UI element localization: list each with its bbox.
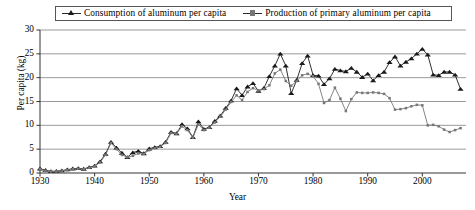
data-point-marker — [416, 104, 419, 107]
data-point-marker — [427, 124, 430, 127]
data-point-marker — [82, 168, 85, 171]
data-point-marker — [208, 126, 211, 129]
data-point-marker — [279, 68, 282, 71]
data-point-marker — [266, 74, 272, 78]
data-point-marker — [448, 131, 451, 134]
data-point-marker — [312, 75, 315, 78]
data-point-marker — [164, 142, 167, 145]
data-point-marker — [361, 92, 364, 95]
data-point-marker — [186, 129, 189, 132]
data-point-marker — [432, 124, 435, 127]
data-point-marker — [295, 80, 298, 83]
data-point-marker — [99, 161, 102, 164]
data-point-marker — [263, 88, 266, 91]
data-point-marker — [425, 53, 431, 57]
data-point-marker — [214, 121, 217, 124]
data-point-marker — [326, 77, 332, 81]
data-point-marker — [224, 108, 227, 111]
data-point-marker — [175, 133, 178, 136]
data-point-marker — [137, 152, 140, 155]
data-point-marker — [203, 129, 206, 132]
aluminum-per-capita-chart: Consumption of aluminum per capita Produ… — [0, 0, 475, 210]
plot-area — [0, 0, 475, 210]
data-point-marker — [386, 60, 392, 64]
data-point-marker — [195, 119, 201, 123]
data-point-marker — [290, 85, 293, 88]
data-point-marker — [405, 107, 408, 110]
data-point-marker — [153, 147, 156, 150]
data-point-marker — [72, 168, 75, 171]
data-point-marker — [381, 70, 387, 74]
data-point-marker — [77, 167, 80, 170]
data-point-marker — [419, 47, 425, 51]
data-point-marker — [268, 84, 271, 87]
data-point-marker — [230, 101, 233, 104]
data-point-marker — [110, 142, 113, 145]
data-point-marker — [192, 136, 195, 139]
data-point-marker — [148, 149, 151, 152]
data-point-marker — [252, 87, 255, 90]
data-point-marker — [350, 98, 353, 101]
data-point-marker — [241, 99, 244, 102]
data-point-marker — [299, 61, 305, 65]
data-point-marker — [285, 80, 288, 83]
data-point-marker — [332, 67, 338, 71]
data-point-marker — [143, 153, 146, 156]
data-point-marker — [459, 127, 462, 129]
data-point-marker — [121, 154, 124, 157]
data-point-marker — [197, 123, 200, 126]
data-point-marker — [334, 86, 337, 89]
data-point-marker — [365, 72, 371, 76]
data-point-marker — [283, 64, 289, 68]
data-point-marker — [372, 91, 375, 94]
data-point-marker — [126, 156, 129, 159]
data-point-marker — [321, 82, 327, 86]
data-point-marker — [44, 169, 47, 172]
data-point-marker — [345, 110, 348, 113]
data-point-marker — [88, 167, 91, 170]
data-point-marker — [339, 97, 342, 100]
data-point-marker — [39, 168, 42, 171]
data-point-marker — [234, 87, 240, 91]
data-point-marker — [399, 108, 402, 111]
data-point-marker — [443, 128, 446, 131]
data-point-marker — [132, 155, 135, 158]
data-point-marker — [61, 170, 64, 173]
data-point-marker — [181, 125, 184, 128]
data-point-marker — [306, 73, 309, 76]
data-point-marker — [272, 64, 278, 68]
data-point-marker — [159, 146, 162, 149]
data-point-marker — [246, 91, 249, 94]
data-point-marker — [66, 169, 69, 172]
data-point-marker — [301, 74, 304, 77]
data-point-marker — [437, 125, 440, 128]
data-point-marker — [383, 93, 386, 96]
data-point-marker — [377, 92, 380, 95]
data-point-marker — [366, 92, 369, 95]
data-point-marker — [457, 87, 463, 91]
data-point-marker — [317, 83, 320, 86]
data-point-marker — [274, 72, 277, 75]
data-point-marker — [454, 129, 457, 132]
data-point-marker — [392, 55, 398, 59]
data-point-marker — [328, 99, 331, 102]
data-point-marker — [50, 170, 53, 173]
data-point-marker — [115, 148, 118, 151]
data-point-marker — [257, 89, 260, 92]
data-point-marker — [219, 116, 222, 119]
data-point-marker — [288, 91, 294, 95]
data-point-marker — [235, 94, 238, 97]
data-point-marker — [323, 102, 326, 105]
data-point-marker — [55, 170, 58, 173]
data-point-marker — [93, 165, 96, 168]
data-point-marker — [348, 66, 354, 70]
data-point-marker — [250, 81, 256, 85]
data-point-marker — [394, 108, 397, 111]
data-point-marker — [170, 132, 173, 135]
data-point-marker — [421, 104, 424, 107]
data-point-marker — [104, 154, 107, 157]
data-point-marker — [388, 97, 391, 100]
data-point-marker — [356, 91, 359, 94]
data-point-marker — [410, 105, 413, 108]
